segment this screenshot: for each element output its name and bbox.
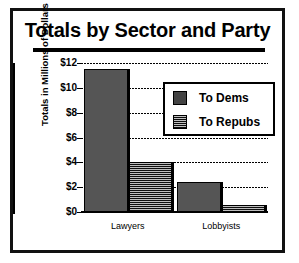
y-axis-tick — [77, 88, 82, 89]
y-axis-tick — [77, 138, 82, 139]
gridline — [81, 63, 268, 64]
y-axis-tick-labels: $0$2$4$6$8$10$12 — [43, 11, 77, 250]
legend-item-to-dems: To Dems — [173, 90, 249, 106]
legend-label-repubs: To Repubs — [199, 115, 260, 129]
legend-swatch-dems-icon — [173, 91, 187, 105]
bar-lawyers-dems — [84, 69, 128, 212]
y-axis-tick-label: $2 — [47, 182, 77, 192]
x-axis-label-lawyers: Lawyers — [81, 221, 175, 231]
y-axis-tick-label: $6 — [47, 133, 77, 143]
y-axis-tick — [77, 113, 82, 114]
legend-label-dems: To Dems — [199, 91, 249, 105]
y-axis-tick-label: $4 — [47, 157, 77, 167]
chart-legend: To Dems To Repubs — [163, 82, 275, 136]
y-axis-tick — [77, 63, 82, 64]
y-axis-tick — [77, 187, 82, 188]
y-axis-tick — [77, 212, 82, 213]
legend-item-to-repubs: To Repubs — [173, 114, 260, 130]
chart-frame: Totals by Sector and Party Totals in Mil… — [10, 8, 285, 253]
bar-lobbyists-dems — [177, 182, 221, 212]
y-axis-tick — [77, 162, 82, 163]
y-axis-line — [13, 63, 15, 214]
bar-lawyers-repubs — [128, 162, 172, 212]
y-axis-tick-label: $0 — [47, 207, 77, 217]
y-axis-tick-label: $12 — [47, 58, 77, 68]
x-axis-label-lobbyists: Lobbyists — [175, 221, 269, 231]
y-axis-tick-label: $10 — [47, 83, 77, 93]
y-axis-tick-label: $8 — [47, 108, 77, 118]
legend-swatch-repubs-icon — [173, 115, 187, 129]
bar-lobbyists-repubs — [221, 205, 265, 212]
